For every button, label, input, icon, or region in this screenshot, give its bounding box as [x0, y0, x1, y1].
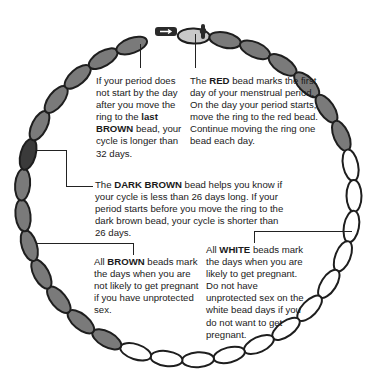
- note-white-text: All: [206, 244, 219, 255]
- note-white-bold: WHITE: [219, 244, 250, 255]
- leader-red: [195, 34, 196, 68]
- bead-brown-day-32: [114, 33, 149, 58]
- leader-dark-brown-h1: [37, 150, 67, 151]
- note-dark-brown-text: The: [95, 179, 114, 190]
- note-dark-brown-bold: DARK BROWN: [114, 179, 182, 190]
- bead-brown-day-24: [17, 228, 41, 263]
- note-red-text: The: [190, 75, 209, 86]
- leader-last-brown: [140, 44, 141, 68]
- note-red-bold: RED: [209, 75, 229, 86]
- bead-white-day-17: [182, 351, 215, 368]
- ring-clasp-bar-icon: [201, 24, 205, 39]
- note-brown-bold: BROWN: [107, 256, 144, 267]
- bead-brown-day-25: [14, 199, 32, 232]
- leader-dark-brown-h2: [66, 186, 93, 187]
- bead-dark-brown-day-27: [16, 137, 39, 172]
- note-white: All WHITE beads mark the days when you a…: [206, 244, 310, 341]
- note-last-brown-text: If your period does not start by the day…: [96, 75, 178, 122]
- bead-brown-day-2: [208, 29, 243, 51]
- note-dark-brown: The DARK BROWN bead helps you know if yo…: [95, 179, 290, 239]
- leader-brown-h: [37, 243, 133, 244]
- bead-brown-day-7: [328, 118, 354, 153]
- note-white-text-2: beads mark the days when you are likely …: [206, 244, 304, 340]
- leader-dark-brown-v: [66, 150, 67, 186]
- leader-brown-v: [133, 243, 134, 255]
- bead-white-day-10: [341, 210, 362, 244]
- bead-white-day-16: [212, 344, 247, 366]
- bead-brown-day-3: [237, 37, 272, 63]
- note-brown: All BROWN beads mark the days when you a…: [94, 256, 200, 316]
- bead-white-day-8: [340, 148, 361, 182]
- note-last-brown: If your period does not start by the day…: [96, 75, 182, 160]
- bead-white-day-9: [346, 180, 361, 212]
- bead-white-day-18: [150, 349, 184, 368]
- bead-brown-day-26: [14, 168, 32, 201]
- note-brown-text: All: [94, 256, 107, 267]
- bead-white-day-19: [118, 340, 153, 364]
- note-red: The RED bead marks the first day of your…: [190, 75, 318, 148]
- bead-white-day-11: [330, 239, 356, 274]
